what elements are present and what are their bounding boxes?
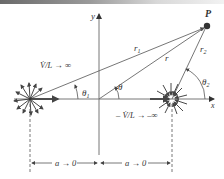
r-label: r xyxy=(165,53,169,63)
sink-strength-label: – V̇/L → –∞ xyxy=(115,110,158,120)
theta1-arc xyxy=(75,85,78,99)
source-strength-label: V̇/L → ∞ xyxy=(40,60,71,70)
dimension-right-label: a → 0 xyxy=(125,158,147,168)
point-p-label: P xyxy=(205,8,212,19)
x-axis-label: x xyxy=(210,101,215,110)
r1-label: r1 xyxy=(134,43,141,54)
y-axis-label: y xyxy=(90,11,95,21)
theta-label: θ xyxy=(118,82,123,92)
dimension-left-label: a → 0 xyxy=(55,158,77,168)
source-sink-diagram: y x P r1 r r2 θ1 θ θ2 V̇/L → ∞ xyxy=(0,0,224,179)
theta1-label: θ1 xyxy=(82,88,89,99)
r2-label: r2 xyxy=(200,44,207,55)
theta2-label: θ2 xyxy=(202,77,209,88)
point-p-marker xyxy=(204,23,210,29)
